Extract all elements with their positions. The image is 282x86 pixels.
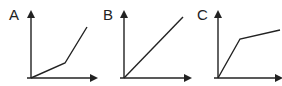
curve-c	[218, 30, 280, 78]
panel-b: B	[103, 6, 190, 78]
three-graphs-diagram: A B C	[0, 0, 282, 86]
panel-c: C	[197, 6, 281, 78]
panel-label-b: B	[103, 6, 113, 23]
curve-b	[124, 17, 183, 78]
panel-label-a: A	[9, 6, 19, 23]
panel-label-c: C	[197, 6, 208, 23]
curve-a	[31, 27, 87, 78]
panel-a: A	[9, 6, 96, 78]
